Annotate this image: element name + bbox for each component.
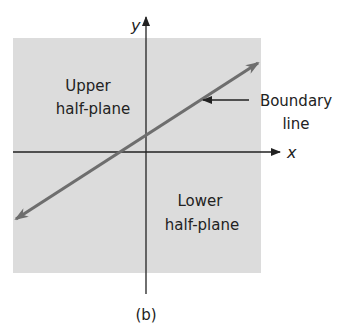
x-axis-label: x: [286, 143, 297, 162]
y-axis-label: y: [130, 16, 141, 35]
figure-caption: (b): [135, 306, 156, 324]
half-plane-diagram: y x Upper half-plane Lower half-plane Bo…: [0, 0, 350, 334]
upper-region-label-line2: half-plane: [56, 100, 130, 118]
lower-region-label-line2: half-plane: [165, 216, 239, 234]
upper-region-label-line1: Upper: [65, 77, 111, 95]
plane-region: [13, 38, 261, 273]
boundary-label-line2: line: [282, 115, 309, 133]
boundary-label-line1: Boundary: [260, 92, 332, 110]
lower-region-label-line1: Lower: [178, 192, 224, 210]
